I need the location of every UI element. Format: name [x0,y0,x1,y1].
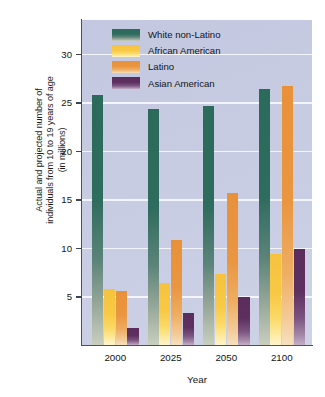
legend-swatch-icon [112,77,140,89]
legend: White non-LatinoAfrican AmericanLatinoAs… [112,28,221,90]
bar-2000-latino [116,291,127,345]
legend-item-latino: Latino [112,60,221,73]
legend-label: Asian American [148,78,215,89]
legend-label: African American [148,45,221,56]
bar-2025-african-american [159,283,170,345]
bar-2025-asian-american [183,313,194,345]
x-tick-label-2000: 2000 [91,352,139,363]
bar-2050-latino [227,193,238,345]
y-tick-label-15: 15 [46,194,72,205]
x-tick-label-2050: 2050 [202,352,250,363]
bar-2100-african-american [270,254,281,345]
gridline-15 [82,199,312,201]
legend-swatch-icon [112,45,140,57]
bar-2100-latino [282,86,293,345]
y-tick-label-30: 30 [46,48,72,59]
gridline-10 [82,248,312,250]
y-tickmark-30 [76,54,82,55]
legend-item-asian-american: Asian American [112,77,221,90]
y-tick-label-25: 25 [46,97,72,108]
bar-2000-asian-american [127,328,138,345]
bar-2100-asian-american [294,249,305,345]
legend-label: White non-Latino [148,29,221,40]
x-tick-label-2100: 2100 [258,352,306,363]
x-axis-line [81,345,313,346]
y-tickmark-5 [76,296,82,297]
y-axis-tick-labels: 51015202530 [44,20,72,345]
legend-item-african-american: African American [112,44,221,57]
gridline-25 [82,102,312,104]
bar-2000-african-american [104,289,115,345]
x-axis-title: Year [82,374,312,385]
bar-2025-latino [171,240,182,345]
y-tick-label-20: 20 [46,145,72,156]
x-tick-label-2025: 2025 [147,352,195,363]
legend-item-white-non-latino: White non-Latino [112,28,221,41]
bar-2050-asian-american [238,297,249,346]
y-tick-label-10: 10 [46,242,72,253]
bar-2100-white-non-latino [259,89,270,345]
gridline-20 [82,151,312,153]
y-tickmark-20 [76,151,82,152]
y-tick-label-5: 5 [46,291,72,302]
legend-swatch-icon [112,29,140,41]
bar-chart-figure: Actual and projected number of individua… [0,0,325,397]
legend-label: Latino [148,61,174,72]
legend-swatch-icon [112,61,140,73]
bar-2050-african-american [215,274,226,345]
y-tickmark-15 [76,199,82,200]
y-tickmark-10 [76,248,82,249]
bar-2000-white-non-latino [92,95,103,345]
bar-2025-white-non-latino [148,109,159,345]
y-tickmark-25 [76,102,82,103]
bar-2050-white-non-latino [203,106,214,345]
